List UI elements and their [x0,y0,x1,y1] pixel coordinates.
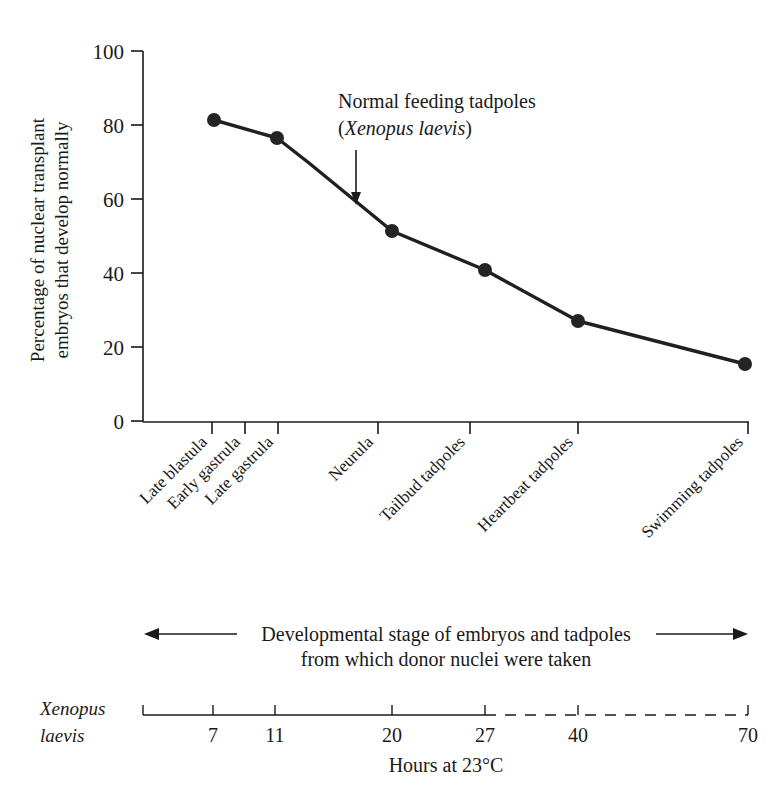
time-axis-tick-label-2: 20 [382,724,402,746]
y-tick-label-60: 60 [103,188,124,212]
caption-line2: from which donor nuclei were taken [301,648,591,670]
annotation-paren-close: ) [465,117,472,140]
caption-arrow-head-left [144,628,159,640]
time-axis-tick-label-3: 27 [475,724,495,746]
y-axis-label-line1: Percentage of nuclear transplant [27,117,48,362]
caption-line1: Developmental stage of embryos and tadpo… [261,623,631,646]
time-axis-tick-label-0: 7 [208,724,218,746]
data-point-neurula [385,224,399,238]
time-axis-tick-label-5: 70 [738,724,758,746]
chart-figure: Percentage of nuclear transplant embryos… [0,0,783,792]
caption-arrow-head-right [733,628,748,640]
data-point-swimming-tadpoles [738,357,752,371]
data-point-tailbud-tadpoles [478,263,492,277]
data-point-early-gastrula [270,131,284,145]
time-axis-species-line2: laevis [40,725,84,746]
time-axis: Xenopus laevis 7 11 20 27 40 70 Hours at… [39,698,758,776]
y-tick-label-80: 80 [103,114,124,138]
annotation-species-italic: Xenopus laevis [344,117,466,140]
x-category-label-5: Heartbeat tadpoles [474,432,577,535]
annotation-line2: (Xenopus laevis) [338,117,472,140]
data-line [214,120,745,364]
data-series [207,113,752,371]
x-axis-caption: Developmental stage of embryos and tadpo… [144,623,748,670]
y-tick-label-0: 0 [114,410,125,434]
annotation-line1: Normal feeding tadpoles [338,90,536,113]
data-point-heartbeat-tadpoles [571,314,585,328]
y-tick-label-20: 20 [103,336,124,360]
x-category-label-6: Swimming tadpoles [638,432,747,541]
time-axis-species-line1: Xenopus [39,698,105,719]
data-point-late-blastula [207,113,221,127]
y-axis-label: Percentage of nuclear transplant embryos… [27,117,72,362]
time-axis-tick-label-1: 11 [265,724,284,746]
chart-svg: Percentage of nuclear transplant embryos… [0,0,783,792]
x-category-label-4: Tailbud tadpoles [376,432,469,525]
y-tick-label-100: 100 [93,40,125,64]
time-axis-tick-label-4: 40 [568,724,588,746]
y-tick-label-40: 40 [103,262,124,286]
x-axis-category-labels: Late blastula Early gastrula Late gastru… [136,432,747,542]
annotation-normal-feeding-tadpoles: Normal feeding tadpoles (Xenopus laevis) [338,90,536,205]
y-axis-label-line2: embryos that develop normally [51,121,72,358]
time-axis-label: Hours at 23°C [389,754,504,776]
x-category-label-3: Neurula [325,432,377,484]
